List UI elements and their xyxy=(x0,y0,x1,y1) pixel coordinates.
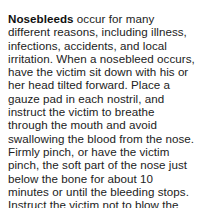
text-line-14: minutes or until the bleeding stops. xyxy=(8,185,201,198)
text-line-8: instruct the victim to breathe xyxy=(8,105,201,118)
text-line-7: gauze pad in each nostril, and xyxy=(8,92,201,105)
text-line-15: Instruct the victim not to blow the xyxy=(8,198,201,208)
text-line-1-rest: occur for many xyxy=(74,12,155,25)
text-line-1: Nosebleeds occur for many xyxy=(8,12,201,25)
text-line-4: irritation. When a nosebleed occurs, xyxy=(8,52,201,65)
text-line-2: different reasons, including illness, xyxy=(8,25,201,38)
text-line-11: Firmly pinch, or have the victim xyxy=(8,145,201,158)
text-line-9: through the mouth and avoid xyxy=(8,118,201,131)
text-line-13: below the bone for about 10 xyxy=(8,172,201,185)
text-line-10: swallowing the blood from the nose. xyxy=(8,132,201,145)
document-paragraph: Nosebleeds occur for many different reas… xyxy=(8,12,201,208)
text-line-5: have the victim sit down with his or xyxy=(8,65,201,78)
text-line-6: her head tilted forward. Place a xyxy=(8,78,201,91)
text-line-12: pinch, the soft part of the nose just xyxy=(8,158,201,171)
text-line-3: infections, accidents, and local xyxy=(8,39,201,52)
bold-term: Nosebleeds xyxy=(8,12,74,25)
